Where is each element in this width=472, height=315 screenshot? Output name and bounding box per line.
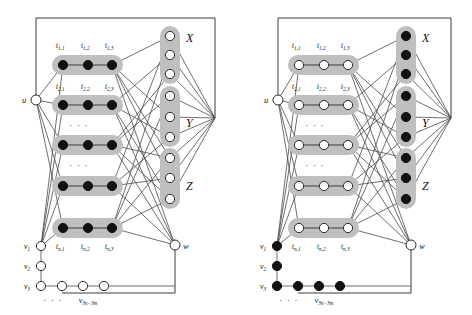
node-t-n-3[interactable] — [343, 223, 352, 232]
label-v-last-right: v3n−3m — [315, 296, 334, 306]
ellipsis-t-right-2: · · · — [305, 160, 325, 170]
node-z-3[interactable] — [401, 194, 410, 203]
svg-text:tn,2: tn,2 — [317, 243, 326, 252]
label-t-1-3-sub: 1,3 — [107, 45, 114, 51]
node-t-1-1[interactable] — [294, 60, 303, 69]
node-t-mid1-3[interactable] — [107, 140, 116, 149]
left-graph-panel: u w X Y Z t1,1 t1,2 t1,3 t2,1 t2,2 t2,3 — [22, 18, 215, 306]
node-y-1[interactable] — [165, 91, 174, 100]
node-v2[interactable] — [36, 261, 45, 270]
node-t-mid2-3[interactable] — [343, 181, 352, 190]
node-v3[interactable] — [36, 281, 45, 290]
node-u-right[interactable] — [273, 95, 283, 105]
label-t-2-2-sub: 2,2 — [83, 86, 90, 92]
node-v1[interactable] — [36, 241, 45, 250]
svg-text:tn,3: tn,3 — [105, 243, 114, 252]
node-t-mid2-1[interactable] — [294, 181, 303, 190]
label-t-n-1-sub: n,1 — [58, 246, 65, 252]
node-v-last[interactable] — [335, 281, 344, 290]
node-y-3[interactable] — [401, 132, 410, 141]
svg-text:t1,1: t1,1 — [56, 42, 65, 51]
node-x-3[interactable] — [165, 69, 174, 78]
label-v-last-left: v3n−3m — [79, 296, 98, 306]
node-x-1[interactable] — [165, 31, 174, 40]
label-t-2-1-sub: 2,1 — [58, 86, 65, 92]
node-t-2-1[interactable] — [294, 100, 303, 109]
node-v2[interactable] — [272, 261, 281, 270]
node-t-mid1-2[interactable] — [319, 140, 328, 149]
label-v3-left: v3 — [24, 282, 31, 292]
node-t-1-3[interactable] — [107, 60, 116, 69]
node-t-n-3[interactable] — [107, 223, 116, 232]
node-t-2-3[interactable] — [343, 100, 352, 109]
node-z-2[interactable] — [401, 173, 410, 182]
node-v4[interactable] — [57, 281, 66, 290]
node-x-2[interactable] — [165, 50, 174, 59]
label-t-1-1-sub: 1,1 — [58, 45, 65, 51]
left-v-chain-edges — [41, 246, 175, 286]
node-t-mid2-1[interactable] — [58, 181, 67, 190]
node-z-1[interactable] — [401, 153, 410, 162]
svg-text:t2,3: t2,3 — [105, 83, 114, 92]
node-x-3[interactable] — [401, 69, 410, 78]
node-t-mid1-3[interactable] — [343, 140, 352, 149]
label-t-row-2-right: t2,1 t2,2 t2,3 — [292, 83, 350, 92]
node-t-2-3[interactable] — [107, 100, 116, 109]
node-z-1[interactable] — [165, 153, 174, 162]
node-t-1-2[interactable] — [319, 60, 328, 69]
label-Z-right: Z — [422, 179, 429, 193]
node-y-1[interactable] — [401, 91, 410, 100]
node-z-3[interactable] — [165, 194, 174, 203]
node-u-left[interactable] — [31, 95, 41, 105]
node-v4[interactable] — [293, 281, 302, 290]
right-xyz-nodes — [401, 31, 410, 203]
node-v-last[interactable] — [99, 281, 108, 290]
label-t-row-1-left: t1,1 t1,2 t1,3 — [56, 42, 114, 51]
label-t-1-2-sub: 1,2 — [83, 45, 90, 51]
node-t-1-3[interactable] — [343, 60, 352, 69]
svg-text:t1,3: t1,3 — [341, 42, 350, 51]
node-v5[interactable] — [314, 281, 323, 290]
node-y-2[interactable] — [401, 112, 410, 121]
node-x-1[interactable] — [401, 31, 410, 40]
svg-text:tn,1: tn,1 — [292, 243, 301, 252]
node-v3[interactable] — [272, 281, 281, 290]
node-x-2[interactable] — [401, 50, 410, 59]
node-v5[interactable] — [78, 281, 87, 290]
node-v1[interactable] — [272, 241, 281, 250]
node-t-1-1[interactable] — [58, 60, 67, 69]
label-v1-right: v1 — [260, 242, 267, 252]
ellipsis-t-right-1: · · · — [305, 120, 325, 130]
ellipsis-t-left-1: · · · — [69, 120, 89, 130]
node-t-2-2[interactable] — [83, 100, 92, 109]
node-t-mid1-1[interactable] — [58, 140, 67, 149]
node-w-right[interactable] — [406, 240, 416, 250]
ellipsis-v-left: · · · — [43, 295, 63, 305]
svg-text:t1,2: t1,2 — [81, 42, 90, 51]
node-t-mid1-2[interactable] — [83, 140, 92, 149]
node-t-mid2-3[interactable] — [107, 181, 116, 190]
node-t-mid1-1[interactable] — [294, 140, 303, 149]
node-t-mid2-2[interactable] — [83, 181, 92, 190]
label-t-row-2-left: t2,1 t2,2 t2,3 — [56, 83, 114, 92]
svg-text:t1,1: t1,1 — [292, 42, 301, 51]
label-t-2-3-sub: 2,3 — [107, 86, 114, 92]
node-t-1-2[interactable] — [83, 60, 92, 69]
ellipsis-t-left-2: · · · — [69, 160, 89, 170]
node-z-2[interactable] — [165, 173, 174, 182]
label-X-left: X — [185, 31, 194, 45]
node-t-mid2-2[interactable] — [319, 181, 328, 190]
node-t-2-1[interactable] — [58, 100, 67, 109]
node-t-n-2[interactable] — [319, 223, 328, 232]
node-y-3[interactable] — [165, 132, 174, 141]
node-y-2[interactable] — [165, 112, 174, 121]
node-w-left[interactable] — [170, 240, 180, 250]
label-t-row-n-left: tn,1 tn,2 tn,3 — [56, 243, 114, 252]
node-t-n-2[interactable] — [83, 223, 92, 232]
node-t-n-1[interactable] — [58, 223, 67, 232]
right-v-chain-edges — [277, 246, 411, 286]
node-t-2-2[interactable] — [319, 100, 328, 109]
figure-root: u w X Y Z t1,1 t1,2 t1,3 t2,1 t2,2 t2,3 — [0, 0, 472, 315]
label-v2-right: v2 — [260, 262, 267, 272]
node-t-n-1[interactable] — [294, 223, 303, 232]
